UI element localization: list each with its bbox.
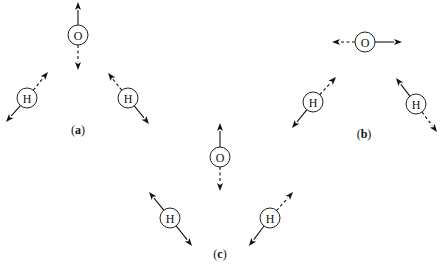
- arrowhead-icon: [217, 123, 223, 131]
- arrowhead-icon: [217, 183, 223, 191]
- arrowhead-icon: [41, 72, 48, 80]
- atom-label: O: [361, 36, 370, 50]
- atom-label: H: [23, 92, 32, 106]
- displacement-arrow-dashed: [320, 83, 331, 95]
- atom-label: H: [166, 212, 175, 226]
- hydrogen-atom: H: [108, 73, 149, 124]
- panel-a: OHH(a): [6, 2, 149, 137]
- displacement-arrow-solid: [401, 84, 410, 96]
- panel-label: (c): [213, 247, 226, 261]
- hydrogen-atom: H: [396, 78, 437, 132]
- atom-label: O: [74, 29, 83, 43]
- panel-c: OHH(c): [149, 123, 293, 261]
- atom-label: H: [266, 212, 275, 226]
- atom-label: O: [216, 151, 225, 165]
- displacement-arrow-solid: [11, 106, 20, 116]
- water-vibration-modes-diagram: OHH(a)OHH(b)OHH(c): [0, 0, 442, 264]
- displacement-arrow-solid: [134, 106, 144, 118]
- arrowhead-icon: [328, 77, 336, 85]
- oxygen-atom: O: [210, 123, 230, 191]
- displacement-arrow-solid: [154, 198, 164, 210]
- atom-label: H: [412, 98, 421, 112]
- atom-label: H: [309, 96, 318, 110]
- displacement-arrow-dashed: [33, 78, 43, 90]
- oxygen-atom: O: [68, 2, 88, 70]
- displacement-arrow-dashed: [113, 79, 122, 90]
- displacement-arrow-dashed: [277, 198, 288, 211]
- displacement-arrow-solid: [254, 226, 264, 240]
- arrowhead-icon: [394, 39, 402, 45]
- arrowhead-icon: [396, 78, 403, 86]
- displacement-arrow-solid: [176, 226, 187, 240]
- displacement-arrow-solid: [297, 110, 307, 122]
- arrowhead-icon: [285, 192, 293, 200]
- hydrogen-atom: H: [149, 192, 192, 246]
- panel-b: OHH(b): [292, 32, 437, 141]
- oxygen-atom: O: [332, 32, 402, 52]
- hydrogen-atom: H: [6, 72, 48, 122]
- panel-label: (a): [71, 123, 85, 137]
- displacement-arrow-dashed: [422, 112, 432, 126]
- hydrogen-atom: H: [249, 192, 293, 246]
- hydrogen-atom: H: [292, 77, 336, 128]
- arrowhead-icon: [75, 62, 81, 70]
- atom-label: H: [124, 92, 133, 106]
- arrowhead-icon: [249, 238, 256, 246]
- arrowhead-icon: [332, 39, 340, 45]
- panel-label: (b): [357, 127, 372, 141]
- arrowhead-icon: [75, 2, 81, 10]
- arrowhead-icon: [185, 238, 192, 246]
- arrowhead-icon: [430, 124, 437, 132]
- arrowhead-icon: [108, 73, 115, 81]
